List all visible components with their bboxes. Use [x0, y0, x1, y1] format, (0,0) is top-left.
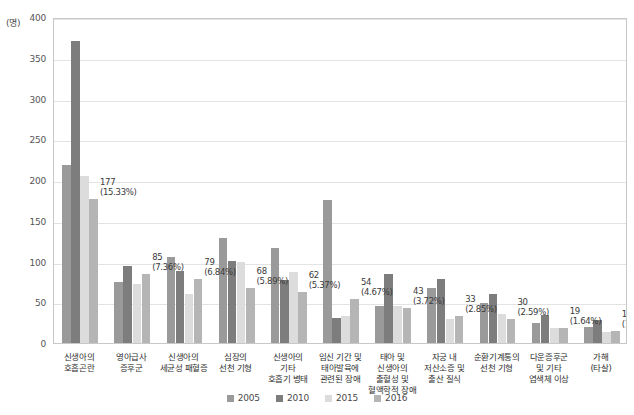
bar-group — [167, 19, 203, 343]
bar — [550, 328, 559, 343]
bar — [341, 316, 350, 343]
legend-swatch-icon — [374, 395, 381, 402]
x-axis-category-label: 신생아의 세균성 패혈증 — [160, 352, 208, 374]
legend-item[interactable]: 2016 — [374, 393, 407, 403]
data-label: 54(4.67%) — [361, 277, 393, 297]
data-label: 177(15.33%) — [100, 177, 137, 197]
bar — [584, 327, 593, 343]
y-axis-tick-label: 400 — [29, 13, 46, 23]
bar — [375, 306, 384, 343]
legend-item[interactable]: 2005 — [227, 393, 260, 403]
legend-item[interactable]: 2010 — [276, 393, 309, 403]
bar — [541, 315, 550, 343]
y-axis: 050100150200250300350400 — [0, 18, 52, 344]
data-label: 19(1.64%) — [570, 306, 602, 326]
data-label-value: 85 — [152, 252, 162, 262]
x-axis-category-label: 영아급사 증후군 — [116, 352, 146, 374]
bar — [194, 279, 203, 343]
legend-item[interactable]: 2015 — [325, 393, 358, 403]
bar — [123, 266, 132, 343]
data-label-value: 68 — [257, 266, 267, 276]
data-label-value: 33 — [465, 294, 475, 304]
legend-label: 2010 — [287, 393, 309, 403]
x-axis-category-labels: 신생아의 호흡곤란영아급사 증후군신생아의 세균성 패혈증심장의 선천 기형신생… — [53, 352, 627, 392]
x-axis-category-label: 다운증후군 및 기타 염색체 이상 — [529, 352, 569, 385]
bar — [559, 328, 568, 343]
bar-chart: (명) 050100150200250300350400 177(15.33%)… — [0, 0, 634, 415]
data-label: 33(2.85%) — [465, 294, 497, 314]
data-label-percent: (5.89%) — [257, 276, 289, 286]
data-label-value: 79 — [204, 257, 214, 267]
bars-layer — [54, 19, 626, 343]
data-label-percent: (2.59%) — [517, 307, 549, 317]
bar — [176, 271, 185, 343]
bar — [446, 319, 455, 343]
data-label-value: 43 — [413, 286, 423, 296]
data-label: 62(5.37%) — [309, 270, 341, 290]
legend-label: 2015 — [336, 393, 358, 403]
y-axis-tick-label: 300 — [29, 95, 46, 105]
y-axis-tick-label: 200 — [29, 176, 46, 186]
legend: 2005201020152016 — [0, 393, 634, 403]
data-label-percent: (1.64%) — [570, 316, 602, 326]
data-label-percent: (5.37%) — [309, 280, 341, 290]
bar — [332, 318, 341, 343]
bar — [71, 41, 80, 343]
bar-group — [62, 19, 98, 343]
bar-group — [584, 19, 620, 343]
bar-group — [323, 19, 359, 343]
bar — [89, 199, 98, 343]
bar — [403, 308, 412, 343]
bar — [498, 314, 507, 343]
data-label-percent: (2.85%) — [465, 304, 497, 314]
data-label: 30(2.59%) — [517, 297, 549, 317]
bar — [114, 282, 123, 343]
y-axis-tick-label: 50 — [35, 298, 46, 308]
legend-swatch-icon — [325, 395, 332, 402]
bar — [237, 262, 246, 343]
x-axis-category-label: 임신 기간 및 태아발육에 관련된 장애 — [319, 352, 362, 385]
data-label: 79(6.84%) — [204, 257, 236, 277]
bar — [298, 292, 307, 343]
y-axis-tick-label: 100 — [29, 258, 46, 268]
bar — [219, 238, 228, 343]
bar — [133, 284, 142, 343]
data-label-percent: (15.33%) — [100, 187, 137, 197]
plot-area: 177(15.33%)85(7.36%)79(6.84%)68(5.89%)62… — [53, 18, 627, 344]
data-label-value: 15 — [622, 309, 627, 319]
data-label-value: 177 — [100, 177, 115, 187]
bar — [611, 331, 620, 343]
data-label-percent: (3.72%) — [413, 296, 445, 306]
bar — [289, 272, 298, 343]
x-axis-category-label: 자궁 내 저산소증 및 출산 질식 — [424, 352, 464, 385]
bar — [271, 248, 280, 343]
data-label-value: 54 — [361, 277, 371, 287]
data-label-value: 30 — [517, 297, 527, 307]
bar-group — [219, 19, 255, 343]
bar — [532, 323, 541, 343]
x-axis-category-label: 신생아의 호흡곤란 — [64, 352, 94, 374]
x-axis-category-label: 순환기계통의 선천 기형 — [474, 352, 520, 374]
x-axis-category-label: 심장의 선천 기형 — [219, 352, 252, 374]
legend-label: 2016 — [385, 393, 407, 403]
data-label: 43(3.72%) — [413, 286, 445, 306]
bar-group — [532, 19, 568, 343]
data-label-percent: (1.29%) — [622, 319, 627, 329]
data-label: 85(7.36%) — [152, 252, 184, 272]
data-label: 15(1.29%) — [622, 309, 627, 329]
legend-label: 2005 — [238, 393, 260, 403]
bar — [280, 280, 289, 343]
bar — [393, 306, 402, 343]
bar — [507, 319, 516, 343]
x-axis-category-label: 가해 (타살) — [590, 352, 611, 374]
bar — [185, 294, 194, 343]
data-label-percent: (7.36%) — [152, 262, 184, 272]
bar — [80, 176, 89, 343]
bar — [602, 332, 611, 343]
legend-swatch-icon — [227, 395, 234, 402]
legend-swatch-icon — [276, 395, 283, 402]
data-label-percent: (6.84%) — [204, 267, 236, 277]
data-label-value: 19 — [570, 306, 580, 316]
bar — [455, 316, 464, 343]
y-axis-tick-label: 0 — [40, 339, 46, 349]
